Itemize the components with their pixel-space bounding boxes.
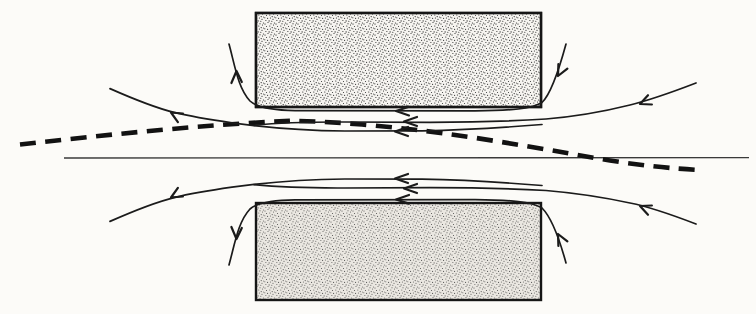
upper-block-texture	[256, 13, 541, 107]
figure-container	[0, 0, 756, 314]
lower-block-texture	[256, 203, 541, 300]
diagram-canvas	[0, 0, 756, 314]
